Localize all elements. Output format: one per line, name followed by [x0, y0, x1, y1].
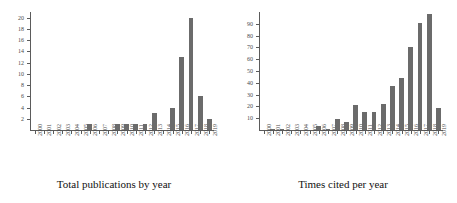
chart-caption-total-publications: Total publications by year: [0, 178, 228, 191]
y-axis-tick: [256, 118, 259, 119]
bar: [418, 23, 423, 130]
x-axis-tick: [53, 131, 54, 134]
x-axis-tick: [71, 131, 72, 134]
y-axis-tick: [256, 36, 259, 37]
x-axis-tick: [374, 131, 375, 134]
y-axis-tick: [27, 85, 30, 86]
y-axis-tick-label: 70: [235, 44, 253, 50]
x-axis-tick-label: 2006: [321, 124, 327, 136]
x-axis-tick-label: 2013: [157, 124, 163, 136]
x-axis-tick: [300, 131, 301, 134]
chart-caption-times-cited: Times cited per year: [229, 178, 457, 191]
x-axis-tick: [273, 131, 274, 134]
y-axis-tick: [256, 59, 259, 60]
plot-area-times-cited: 1020304050607080902000200120022003200420…: [259, 12, 443, 130]
y-axis-tick-label: 8: [6, 82, 24, 88]
y-axis-tick-label: 2: [6, 116, 24, 122]
y-axis-tick: [27, 63, 30, 64]
x-axis-tick-label: 2007: [102, 124, 108, 136]
x-axis-tick: [191, 131, 192, 134]
bar: [133, 124, 138, 130]
x-axis-tick-label: 2004: [74, 124, 80, 136]
x-axis-tick: [420, 131, 421, 134]
bar: [353, 105, 358, 130]
x-axis-tick: [429, 131, 430, 134]
bar: [381, 104, 386, 130]
y-axis-tick: [27, 108, 30, 109]
bar: [87, 124, 92, 130]
y-axis-tick-label: 12: [6, 60, 24, 66]
bar: [362, 112, 367, 130]
x-axis-tick: [310, 131, 311, 134]
bar: [207, 119, 212, 130]
y-axis-tick-label: 14: [6, 48, 24, 54]
x-axis-tick: [337, 131, 338, 134]
x-axis-tick-label: 2006: [92, 124, 98, 136]
bar: [170, 108, 175, 130]
y-axis-tick-label: 6: [6, 93, 24, 99]
y-axis-tick: [27, 96, 30, 97]
y-axis-tick-label: 60: [235, 56, 253, 62]
y-axis-tick-label: 20: [6, 15, 24, 21]
bar: [326, 129, 331, 131]
x-axis-tick: [173, 131, 174, 134]
x-axis-tick: [438, 131, 439, 134]
x-axis-tick: [383, 131, 384, 134]
x-axis-tick: [200, 131, 201, 134]
bar: [152, 113, 157, 130]
plot-area-total-publications: 2468101214161820200020012002200320042005…: [30, 12, 214, 130]
x-axis-tick: [182, 131, 183, 134]
y-axis-tick: [256, 83, 259, 84]
y-axis-tick-label: 10: [235, 115, 253, 121]
y-axis-tick-label: 30: [235, 92, 253, 98]
x-axis-tick: [365, 131, 366, 134]
x-axis-tick: [127, 131, 128, 134]
x-axis-tick: [44, 131, 45, 134]
y-axis-tick-label: 90: [235, 21, 253, 27]
y-axis-tick: [27, 74, 30, 75]
x-axis-tick-label: 2002: [285, 124, 291, 136]
x-axis-tick: [282, 131, 283, 134]
x-axis-tick: [81, 131, 82, 134]
figure-root: 2468101214161820200020012002200320042005…: [0, 0, 457, 203]
x-axis-tick: [108, 131, 109, 134]
x-axis-tick: [35, 131, 36, 134]
chart-panel-total-publications: 2468101214161820200020012002200320042005…: [0, 0, 228, 203]
y-axis-tick-label: 10: [6, 71, 24, 77]
bar: [270, 129, 275, 131]
bar: [427, 14, 432, 130]
bar: [198, 96, 203, 130]
y-axis-tick-label: 40: [235, 80, 253, 86]
x-axis-tick: [136, 131, 137, 134]
x-axis-tick-label: 2019: [441, 124, 447, 136]
x-axis-tick-label: 2001: [275, 124, 281, 136]
x-axis-tick-label: 2003: [65, 124, 71, 136]
bar: [179, 57, 184, 130]
y-axis-tick-label: 80: [235, 33, 253, 39]
y-axis-line: [259, 12, 260, 130]
y-axis-tick: [27, 29, 30, 30]
y-axis-tick: [256, 71, 259, 72]
y-axis-tick: [27, 119, 30, 120]
y-axis-tick: [27, 40, 30, 41]
x-axis-tick: [392, 131, 393, 134]
bar: [189, 18, 194, 130]
x-axis-tick: [209, 131, 210, 134]
bar: [316, 126, 321, 130]
x-axis-tick: [328, 131, 329, 134]
x-axis-tick: [163, 131, 164, 134]
y-axis-tick-label: 20: [235, 103, 253, 109]
y-axis-tick-label: 50: [235, 68, 253, 74]
bar: [335, 119, 340, 130]
x-axis-tick: [154, 131, 155, 134]
x-axis-tick-label: 2000: [266, 124, 272, 136]
x-axis-tick-label: 2002: [56, 124, 62, 136]
x-axis-tick-label: 2001: [46, 124, 52, 136]
x-axis-tick: [99, 131, 100, 134]
x-axis-tick-label: 2003: [294, 124, 300, 136]
bar: [408, 47, 413, 130]
x-axis-tick: [90, 131, 91, 134]
y-axis-tick-label: 18: [6, 26, 24, 32]
bar: [280, 129, 285, 131]
x-axis-tick: [291, 131, 292, 134]
